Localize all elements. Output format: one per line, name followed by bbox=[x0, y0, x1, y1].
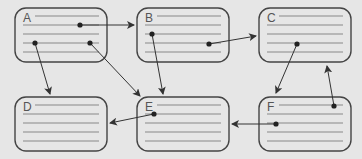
anchor-dot-icon bbox=[87, 40, 92, 45]
edge-a-to-b bbox=[77, 22, 134, 27]
edge-f-to-c bbox=[327, 66, 337, 109]
edge-a-to-d bbox=[32, 40, 50, 94]
arrow-line bbox=[110, 114, 154, 123]
node-label-b: B bbox=[145, 12, 153, 24]
anchor-dot-icon bbox=[149, 31, 154, 36]
arrow-line bbox=[327, 66, 334, 106]
edge-a-to-e bbox=[87, 40, 140, 96]
diagram-canvas bbox=[0, 0, 362, 159]
anchor-dot-icon bbox=[331, 103, 336, 108]
edge-c-to-f bbox=[276, 41, 300, 93]
node-label-c: C bbox=[267, 12, 276, 24]
anchor-dot-icon bbox=[294, 41, 299, 46]
arrow-line bbox=[276, 44, 297, 93]
edge-f-to-e bbox=[232, 121, 279, 126]
node-label-e: E bbox=[145, 101, 153, 113]
arrow-line bbox=[90, 43, 140, 96]
anchor-dot-icon bbox=[32, 40, 37, 45]
anchor-dot-icon bbox=[77, 22, 82, 27]
edge-b-to-c bbox=[206, 36, 256, 47]
node-label-f: F bbox=[267, 101, 274, 113]
edges-layer bbox=[32, 22, 336, 126]
node-label-d: D bbox=[23, 101, 32, 113]
anchor-dot-icon bbox=[273, 121, 278, 126]
node-label-a: A bbox=[23, 12, 31, 24]
nodes-layer bbox=[15, 8, 351, 151]
anchor-dot-icon bbox=[206, 41, 211, 46]
arrow-line bbox=[35, 43, 50, 94]
arrow-line bbox=[209, 36, 256, 44]
